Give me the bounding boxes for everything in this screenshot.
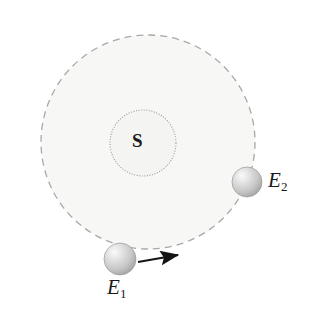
sun-label: S — [132, 131, 143, 150]
orbit-direction-arrow — [138, 255, 178, 262]
diagram-canvas — [0, 0, 320, 310]
orbit-diagram: S E1 E2 — [0, 0, 320, 310]
earth-position-1-label-subscript: 1 — [120, 286, 127, 301]
earth-position-2-label-subscript: 2 — [281, 179, 288, 194]
earth-position-1-label: E1 — [107, 277, 126, 298]
earth-position-1-label-base: E — [107, 275, 120, 299]
earth-position-2-sphere — [232, 167, 262, 197]
sun-circle — [110, 110, 176, 176]
earth-position-1-sphere — [104, 243, 136, 275]
earth-position-2-label-base: E — [268, 168, 281, 192]
earth-position-2-label: E2 — [268, 170, 287, 191]
